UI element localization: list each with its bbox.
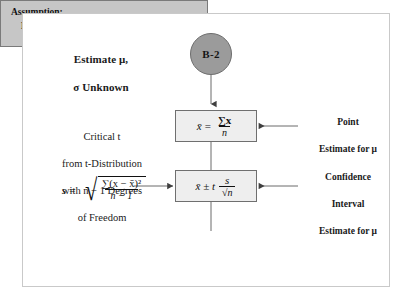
- confidence-interval-label-line1: Confidence: [300, 171, 396, 184]
- estimate-heading-line2: σ Unknown: [36, 80, 166, 94]
- xbar-plus-minus-t: x̄ ± t: [196, 180, 215, 192]
- s-formula-math: s = √ ∑(x − x̄)² n − 1: [62, 176, 146, 204]
- estimate-heading: Estimate μ, σ Unknown: [36, 38, 166, 108]
- equals-sign: =: [66, 184, 78, 196]
- point-estimate-label-line1: Point: [300, 116, 396, 129]
- confidence-interval-label-line2: Interval: [300, 198, 396, 211]
- diagram-canvas: Estimate μ, σ Unknown B-2 x̄ = ∑x n x̄ ±…: [0, 0, 414, 301]
- fraction-numerator: ∑x: [215, 114, 234, 126]
- point-estimate-formula: x̄ = ∑x n: [197, 114, 235, 138]
- standard-deviation-formula: s = √ ∑(x − x̄)² n − 1: [44, 176, 164, 204]
- confidence-interval-label: Confidence Interval Estimate for μ: [300, 158, 396, 252]
- point-estimate-formula-box[interactable]: x̄ = ∑x n: [175, 110, 257, 142]
- critical-t-line4: of Freedom: [36, 211, 168, 224]
- fraction-denominator: √n: [219, 186, 236, 198]
- confidence-interval-formula: x̄ ± t s √n: [196, 174, 237, 198]
- sum-over-n-fraction: ∑x n: [215, 114, 234, 138]
- confidence-interval-formula-box[interactable]: x̄ ± t s √n: [175, 170, 257, 202]
- equals-sign: =: [202, 120, 214, 132]
- fraction-numerator: s: [222, 174, 232, 186]
- radicand: ∑(x − x̄)² n − 1: [98, 176, 146, 204]
- point-estimate-label-line2: Estimate for μ: [300, 143, 396, 156]
- radicand-denominator: n − 1: [105, 189, 139, 201]
- s-over-sqrt-n-fraction: s √n: [219, 174, 236, 198]
- estimate-heading-line1: Estimate μ,: [36, 52, 166, 66]
- fraction-denominator: n: [219, 126, 230, 138]
- node-circle-label: B-2: [202, 48, 219, 60]
- confidence-interval-label-line3: Estimate for μ: [300, 225, 396, 238]
- radicand-numerator: ∑(x − x̄)²: [100, 178, 143, 189]
- critical-t-line1: Critical t: [36, 130, 168, 143]
- square-root-symbol: √ ∑(x − x̄)² n − 1: [81, 176, 146, 204]
- node-circle-b2[interactable]: B-2: [190, 33, 232, 75]
- critical-t-line2: from t-Distribution: [36, 157, 168, 170]
